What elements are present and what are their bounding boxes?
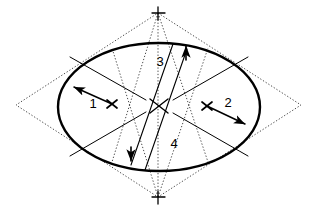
label-3: 3	[156, 54, 163, 69]
label-2: 2	[224, 95, 231, 110]
ellipse-construction-diagram: 1 2 3 4	[0, 0, 315, 210]
label-4: 4	[170, 136, 177, 151]
label-1: 1	[89, 96, 96, 111]
diagram-root: 1 2 3 4	[0, 0, 315, 210]
